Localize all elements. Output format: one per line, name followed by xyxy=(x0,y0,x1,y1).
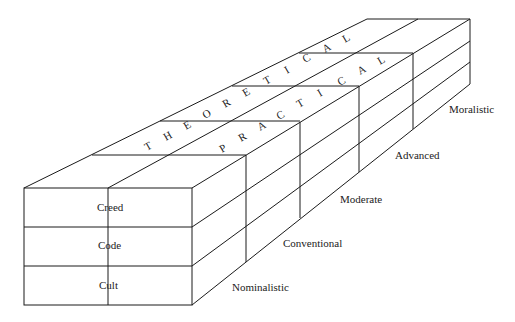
right-row-line xyxy=(192,62,470,266)
svg-text:O: O xyxy=(200,106,213,120)
svg-text:C: C xyxy=(274,108,286,122)
top-right-edge xyxy=(192,19,470,188)
segment-label-moderate: Moderate xyxy=(340,193,382,205)
segment-label-nominalistic: Nominalistic xyxy=(232,281,289,293)
svg-text:E: E xyxy=(181,118,193,132)
svg-text:I: I xyxy=(282,63,291,75)
segment-label-advanced: Advanced xyxy=(395,149,440,161)
svg-text:T: T xyxy=(294,96,306,110)
svg-text:R: R xyxy=(220,95,233,109)
box-diagram: Creed Code Cult Nominalistic Conventiona… xyxy=(0,0,515,322)
right-row-line xyxy=(192,41,470,227)
segment-label-conventional: Conventional xyxy=(283,237,342,249)
svg-text:A: A xyxy=(355,62,368,76)
right-bottom-edge xyxy=(192,84,470,305)
practical-label: P R A C T I C A L xyxy=(217,53,387,155)
svg-text:L: L xyxy=(340,31,352,45)
top-left-edge xyxy=(24,19,367,188)
svg-text:H: H xyxy=(161,128,174,142)
svg-text:T: T xyxy=(261,73,273,87)
svg-text:E: E xyxy=(240,85,252,99)
row-label-creed: Creed xyxy=(97,201,124,213)
row-label-code: Code xyxy=(98,239,121,251)
segment-label-moralistic: Moralistic xyxy=(449,103,494,115)
svg-text:P: P xyxy=(217,141,228,154)
svg-text:L: L xyxy=(375,53,387,67)
svg-text:T: T xyxy=(142,139,154,153)
svg-text:R: R xyxy=(236,129,249,143)
row-label-cult: Cult xyxy=(99,279,118,291)
svg-text:A: A xyxy=(255,118,268,132)
svg-text:I: I xyxy=(315,86,324,98)
